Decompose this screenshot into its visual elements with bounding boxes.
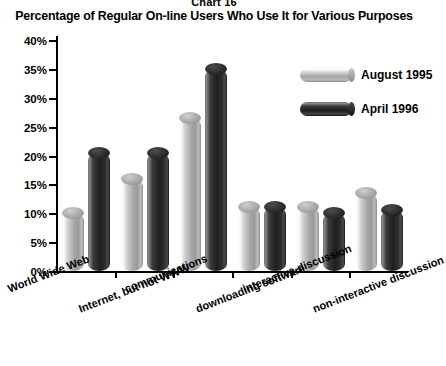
bar-august-1995 bbox=[121, 179, 143, 271]
bar-top-ellipse bbox=[62, 207, 84, 219]
legend-item-august-1995: August 1995 bbox=[300, 63, 432, 87]
legend-label: April 1996 bbox=[361, 102, 418, 116]
y-tick-label: 10% bbox=[24, 208, 47, 220]
y-tick-label: 0% bbox=[30, 266, 47, 278]
y-tick-label: 20% bbox=[24, 151, 47, 163]
bar-top-ellipse bbox=[205, 63, 227, 75]
bar-august-1995 bbox=[355, 193, 377, 271]
y-tick-mark bbox=[49, 127, 56, 129]
bar-top-ellipse bbox=[381, 204, 403, 216]
legend-item-april-1996: April 1996 bbox=[300, 97, 432, 121]
chart-title: Percentage of Regular On-line Users Who … bbox=[0, 9, 428, 23]
chart-number: Chart 16 bbox=[0, 0, 428, 8]
bar-april-1996 bbox=[323, 213, 345, 271]
bar-group bbox=[121, 36, 180, 271]
y-tick-label: 30% bbox=[24, 93, 47, 105]
bar-august-1995 bbox=[62, 213, 84, 271]
y-tick-label: 35% bbox=[24, 64, 47, 76]
bar-april-1996 bbox=[88, 153, 110, 271]
y-tick-mark bbox=[49, 69, 56, 71]
bar-group bbox=[238, 36, 297, 271]
chart-legend: August 1995 April 1996 bbox=[300, 63, 432, 131]
y-tick-mark bbox=[49, 98, 56, 100]
x-tick-mark bbox=[291, 272, 293, 278]
y-tick-label: 40% bbox=[24, 35, 47, 47]
x-tick-mark bbox=[115, 272, 117, 278]
x-tick-mark bbox=[349, 272, 351, 278]
bar-group bbox=[62, 36, 121, 271]
bar-top-ellipse bbox=[179, 112, 201, 124]
bar-august-1995 bbox=[238, 207, 260, 271]
bar-august-1995 bbox=[297, 207, 319, 271]
y-tick-mark bbox=[49, 242, 56, 244]
y-tick-mark bbox=[49, 40, 56, 42]
bar-top-ellipse bbox=[323, 207, 345, 219]
y-tick-mark bbox=[49, 271, 56, 273]
bar-top-ellipse bbox=[121, 173, 143, 185]
bar-april-1996 bbox=[205, 69, 227, 271]
x-tick-mark bbox=[173, 272, 175, 278]
y-tick-mark bbox=[49, 156, 56, 158]
y-tick-label: 25% bbox=[24, 122, 47, 134]
bar-april-1996 bbox=[381, 210, 403, 271]
light-cylinder-swatch-icon bbox=[300, 68, 352, 82]
dark-cylinder-swatch-icon bbox=[300, 102, 352, 116]
bar-top-ellipse bbox=[238, 201, 260, 213]
y-tick-mark bbox=[49, 213, 56, 215]
bar-top-ellipse bbox=[88, 147, 110, 159]
y-tick-mark bbox=[49, 184, 56, 186]
bar-april-1996 bbox=[264, 207, 286, 271]
bar-april-1996 bbox=[147, 153, 169, 271]
legend-label: August 1995 bbox=[361, 68, 432, 82]
bar-group bbox=[179, 36, 238, 271]
bar-august-1995 bbox=[179, 118, 201, 271]
y-tick-label: 5% bbox=[30, 237, 47, 249]
x-tick-mark bbox=[232, 272, 234, 278]
bar-top-ellipse bbox=[147, 147, 169, 159]
bar-top-ellipse bbox=[355, 187, 377, 199]
bar-top-ellipse bbox=[264, 201, 286, 213]
y-tick-label: 15% bbox=[24, 179, 47, 191]
bar-top-ellipse bbox=[297, 201, 319, 213]
